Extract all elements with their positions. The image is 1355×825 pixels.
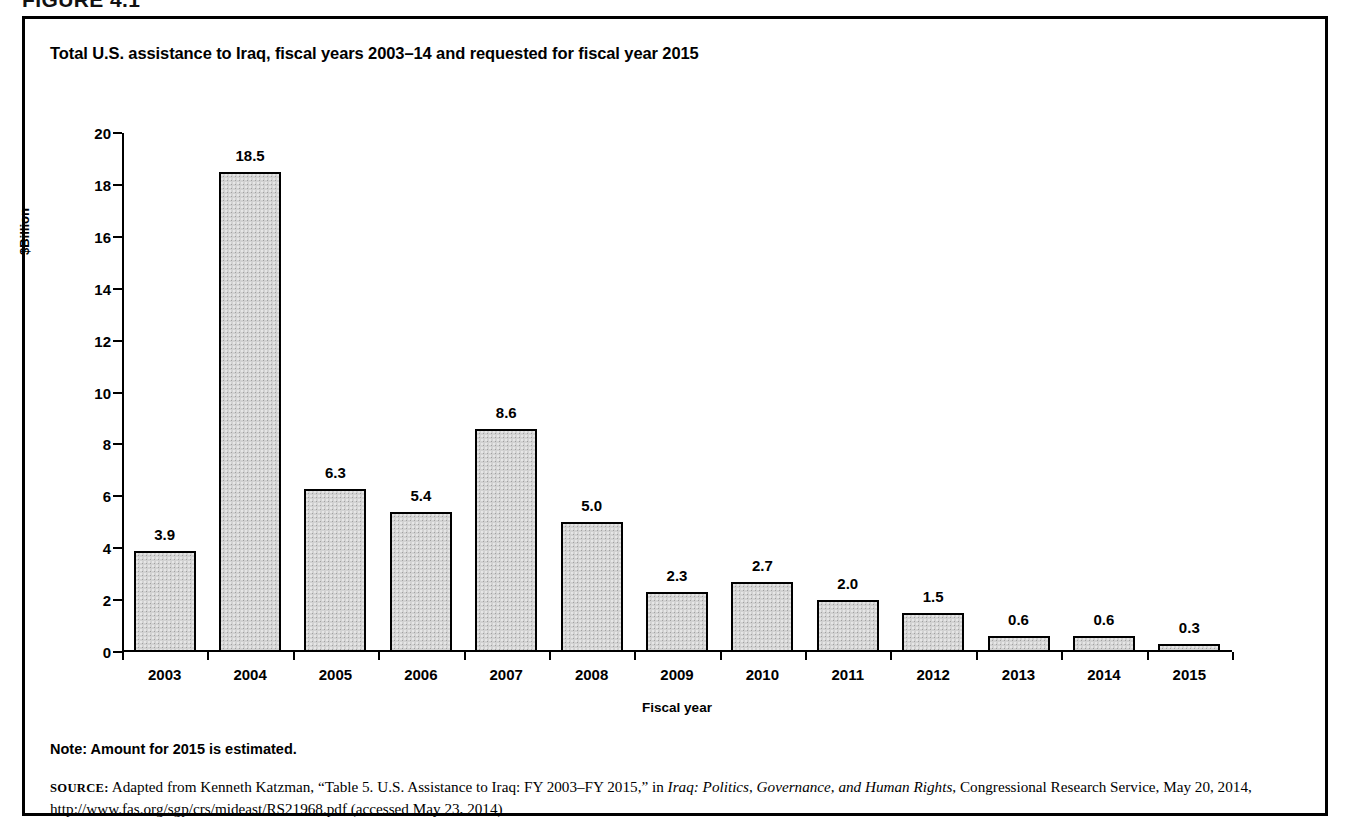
bar-2003[interactable]	[134, 551, 196, 652]
x-axis-tick	[464, 652, 466, 660]
bar-2006[interactable]	[390, 512, 452, 652]
x-axis-tick-labels: 2003200420052006200720082009201020112012…	[122, 652, 1232, 692]
bar-2014[interactable]	[1073, 636, 1135, 652]
x-axis-tick-label-2008: 2008	[575, 666, 608, 683]
bar-slot: 2.7	[720, 133, 805, 652]
bar-value-label: 0.6	[1093, 611, 1114, 628]
y-axis-tick-label: 8	[59, 436, 111, 453]
bar-value-label: 6.3	[325, 464, 346, 481]
x-axis-tick	[890, 652, 892, 660]
bar-slot: 0.6	[1061, 133, 1146, 652]
y-axis-tick	[113, 651, 122, 653]
y-axis-tick-label: 14	[59, 280, 111, 297]
source-publication-title: Iraq: Politics, Governance, and Human Ri…	[668, 778, 953, 795]
bar-2013[interactable]	[988, 636, 1050, 652]
x-axis-tick	[976, 652, 978, 660]
bar-slot: 8.6	[464, 133, 549, 652]
x-axis-tick	[293, 652, 295, 660]
x-axis-tick-label-2009: 2009	[660, 666, 693, 683]
bar-2009[interactable]	[646, 592, 708, 652]
bar-series: 3.918.56.35.48.65.02.32.72.01.50.60.60.3	[122, 133, 1232, 652]
x-axis-tick	[1061, 652, 1063, 660]
x-axis-tick-label-2015: 2015	[1173, 666, 1206, 683]
y-axis-tick	[113, 236, 122, 238]
bar-slot: 18.5	[207, 133, 292, 652]
y-axis-tick-label: 18	[59, 176, 111, 193]
bar-slot: 2.0	[805, 133, 890, 652]
x-axis-tick	[1232, 652, 1234, 660]
x-axis-tick-label-2011: 2011	[831, 666, 864, 683]
y-axis-tick	[113, 495, 122, 497]
x-axis-tick	[549, 652, 551, 660]
x-axis-tick	[634, 652, 636, 660]
bar-2010[interactable]	[731, 582, 793, 652]
bar-value-label: 5.4	[410, 487, 431, 504]
x-axis-tick	[720, 652, 722, 660]
x-axis-tick	[207, 652, 209, 660]
bar-slot: 2.3	[634, 133, 719, 652]
bar-slot: 6.3	[293, 133, 378, 652]
y-axis-tick-label: 12	[59, 332, 111, 349]
x-axis-tick-label-2005: 2005	[319, 666, 352, 683]
y-axis-tick	[113, 340, 122, 342]
x-axis-tick-label-2007: 2007	[490, 666, 523, 683]
bar-value-label: 8.6	[496, 404, 517, 421]
y-axis-tick-labels: 02468101214161820	[51, 133, 111, 652]
bar-value-label: 2.3	[667, 567, 688, 584]
chart-area: $Billion 02468101214161820 3.918.56.35.4…	[25, 19, 1325, 813]
bar-value-label: 2.0	[837, 575, 858, 592]
y-axis-tick-label: 10	[59, 384, 111, 401]
bar-2012[interactable]	[902, 613, 964, 652]
figure-source: SOURCE: Adapted from Kenneth Katzman, “T…	[50, 777, 1315, 818]
bar-slot: 5.4	[378, 133, 463, 652]
bar-value-label: 2.7	[752, 557, 773, 574]
x-axis-tick	[122, 652, 124, 660]
y-axis-tick	[113, 599, 122, 601]
bar-2007[interactable]	[475, 429, 537, 652]
y-axis-tick-label: 6	[59, 488, 111, 505]
figure-note: Note: Amount for 2015 is estimated.	[50, 741, 297, 757]
y-axis-tick-label: 16	[59, 228, 111, 245]
bar-slot: 1.5	[890, 133, 975, 652]
y-axis-tick	[113, 288, 122, 290]
x-axis-tick-label-2003: 2003	[148, 666, 181, 683]
x-axis-tick-label-2013: 2013	[1002, 666, 1035, 683]
y-axis-tick-label: 2	[59, 592, 111, 609]
bar-value-label: 5.0	[581, 497, 602, 514]
y-axis-tick	[113, 392, 122, 394]
bar-value-label: 3.9	[154, 526, 175, 543]
bar-slot: 3.9	[122, 133, 207, 652]
x-axis-tick	[1147, 652, 1149, 660]
y-axis-tick-label: 20	[59, 125, 111, 142]
bar-value-label: 18.5	[235, 147, 264, 164]
source-prefix: SOURCE:	[50, 781, 109, 795]
bar-value-label: 0.3	[1179, 619, 1200, 636]
x-axis-tick-label-2010: 2010	[746, 666, 779, 683]
x-axis-tick-label-2014: 2014	[1087, 666, 1120, 683]
y-axis-tick-label: 4	[59, 540, 111, 557]
bar-2004[interactable]	[219, 172, 281, 652]
x-axis-tick	[805, 652, 807, 660]
bar-value-label: 0.6	[1008, 611, 1029, 628]
y-axis-title: $Billion	[17, 208, 32, 255]
bar-value-label: 1.5	[923, 588, 944, 605]
source-text-part1: Adapted from Kenneth Katzman, “Table 5. …	[109, 778, 668, 795]
x-axis-tick	[378, 652, 380, 660]
y-axis-tick-label: 0	[59, 644, 111, 661]
bar-2005[interactable]	[304, 489, 366, 652]
y-axis-tick	[113, 132, 122, 134]
y-axis-tick	[113, 443, 122, 445]
bar-2008[interactable]	[561, 522, 623, 652]
bar-2015[interactable]	[1158, 644, 1220, 652]
bar-slot: 0.3	[1147, 133, 1232, 652]
bar-slot: 0.6	[976, 133, 1061, 652]
figure-frame: Total U.S. assistance to Iraq, fiscal ye…	[22, 16, 1328, 816]
figure-page: FIGURE 4.1 Total U.S. assistance to Iraq…	[0, 0, 1355, 825]
bar-2011[interactable]	[817, 600, 879, 652]
figure-number-label: FIGURE 4.1	[22, 0, 140, 12]
x-axis-tick-label-2006: 2006	[404, 666, 437, 683]
x-axis-tick-label-2012: 2012	[916, 666, 949, 683]
x-axis-tick-label-2004: 2004	[233, 666, 266, 683]
y-axis-tick	[113, 184, 122, 186]
y-axis-tick	[113, 547, 122, 549]
